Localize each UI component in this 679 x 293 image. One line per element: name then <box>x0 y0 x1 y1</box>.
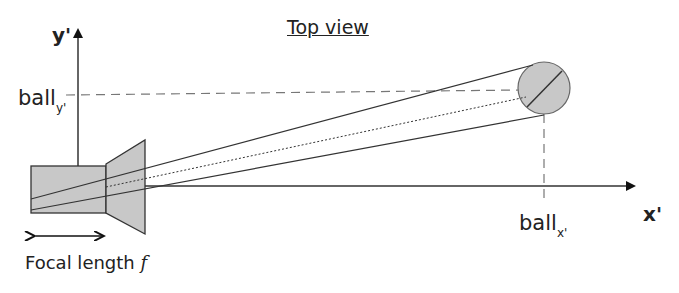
ball-y-label-sub: y' <box>56 101 66 115</box>
ray-top <box>31 65 533 199</box>
ball-x-label-sub: x' <box>557 226 567 240</box>
ball-x-label-main: ball <box>519 211 557 235</box>
ball-x-label: ballx' <box>519 211 567 235</box>
ball-y-label-main: ball <box>18 86 56 110</box>
x-axis-label: x' <box>643 202 662 226</box>
camera-lens <box>106 140 145 234</box>
y-axis-label: y' <box>52 23 71 47</box>
ball-y-guide-line <box>66 90 520 95</box>
focal-length-text: Focal length <box>25 252 140 273</box>
ball-y-label: bally' <box>18 86 66 110</box>
diagram-title: Top view <box>287 16 369 38</box>
ball <box>518 62 570 114</box>
ray-center-dotted <box>106 97 526 187</box>
focal-length-symbol: f <box>140 252 147 273</box>
diagram-canvas <box>0 0 679 293</box>
focal-length-label: Focal length f <box>25 252 147 273</box>
